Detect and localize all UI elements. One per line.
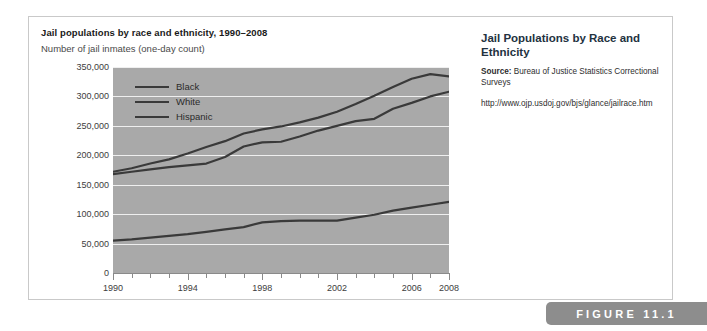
- x-axis-tick: [281, 273, 282, 278]
- x-axis-tick: [225, 273, 226, 278]
- x-axis-tick: [412, 273, 413, 280]
- x-axis-tick: [300, 273, 301, 278]
- x-axis-tick-label: 2008: [439, 283, 459, 293]
- x-axis-tick: [374, 273, 375, 278]
- plot-wrapper: 50,000100,000150,000200,000250,000300,00…: [41, 67, 453, 279]
- figure-number-tab: FIGURE 11.1: [546, 302, 707, 325]
- x-axis-tick: [188, 273, 189, 280]
- y-axis-tick-label: 100,000: [49, 209, 109, 219]
- y-axis-tick-label: 250,000: [49, 121, 109, 131]
- x-axis-tick: [337, 273, 338, 280]
- x-axis-tick: [449, 273, 450, 280]
- x-axis-tick: [262, 273, 263, 280]
- x-axis-tick: [150, 273, 151, 278]
- x-axis-tick: [206, 273, 207, 278]
- legend-label: Black: [176, 81, 199, 92]
- figure-card: Jail populations by race and ethnicity, …: [28, 16, 673, 300]
- legend-label: White: [176, 96, 200, 107]
- x-axis-tick: [318, 273, 319, 278]
- x-axis-tick: [244, 273, 245, 278]
- chart-subtitle: Number of jail inmates (one-day count): [41, 43, 453, 54]
- chart-title: Jail populations by race and ethnicity, …: [41, 27, 453, 38]
- legend-item-white: White: [135, 94, 212, 109]
- caption-title: Jail Populations by Race and Ethnicity: [481, 31, 666, 59]
- x-axis-tick-label: 2002: [327, 283, 347, 293]
- caption-source-label: Source:: [481, 67, 511, 76]
- figure-number-label: FIGURE 11.1: [576, 308, 677, 320]
- series-line-hispanic: [113, 202, 449, 241]
- caption-url[interactable]: http://www.ojp.usdoj.gov/bjs/glance/jail…: [481, 98, 666, 109]
- legend-line-icon: [135, 101, 169, 103]
- legend-line-icon: [135, 116, 169, 118]
- legend-label: Hispanic: [176, 111, 212, 122]
- x-axis-tick: [393, 273, 394, 278]
- y-axis-tick-label: 300,000: [49, 91, 109, 101]
- caption-panel: Jail Populations by Race and Ethnicity S…: [481, 31, 666, 109]
- y-axis-tick-label: 150,000: [49, 180, 109, 190]
- x-axis-tick-label: 1998: [252, 283, 272, 293]
- legend-item-hispanic: Hispanic: [135, 109, 212, 124]
- y-axis-zero-label: 0: [41, 268, 109, 278]
- y-axis-tick-label: 50,000: [49, 239, 109, 249]
- chart-legend: BlackWhiteHispanic: [135, 79, 212, 124]
- plot-area: BlackWhiteHispanic: [113, 67, 449, 273]
- x-axis-tick: [113, 273, 114, 280]
- x-axis: [113, 273, 449, 281]
- x-axis-tick: [169, 273, 170, 278]
- chart-container: Jail populations by race and ethnicity, …: [41, 27, 453, 289]
- x-axis-labels: 199019941998200220062008: [113, 283, 449, 297]
- y-axis-tick-label: 200,000: [49, 150, 109, 160]
- legend-line-icon: [135, 86, 169, 88]
- x-axis-tick: [430, 273, 431, 278]
- x-axis-tick-label: 2006: [402, 283, 422, 293]
- y-axis-labels: 50,000100,000150,000200,000250,000300,00…: [41, 67, 113, 273]
- x-axis-tick: [132, 273, 133, 278]
- x-axis-tick-label: 1994: [178, 283, 198, 293]
- x-axis-tick: [356, 273, 357, 278]
- legend-item-black: Black: [135, 79, 212, 94]
- caption-source: Source: Bureau of Justice Statistics Cor…: [481, 66, 666, 89]
- y-axis-tick-label: 350,000: [49, 62, 109, 72]
- x-axis-tick-label: 1990: [103, 283, 123, 293]
